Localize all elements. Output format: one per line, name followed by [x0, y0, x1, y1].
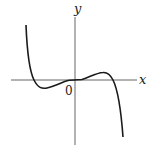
x-axis-label: x: [139, 72, 147, 87]
graph-figure: y x 0: [0, 0, 162, 153]
origin-label: 0: [65, 84, 73, 98]
y-axis-label: y: [73, 1, 82, 16]
